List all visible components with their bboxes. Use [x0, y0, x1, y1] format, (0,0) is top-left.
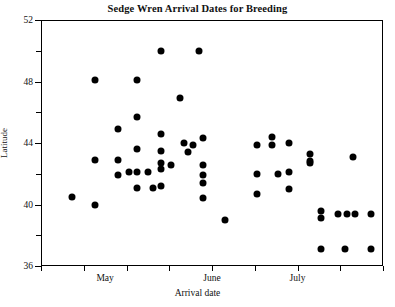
y-tick-label: 40 — [24, 200, 34, 210]
data-point — [285, 186, 292, 193]
data-point — [285, 140, 292, 147]
y-tick-label: 48 — [24, 77, 34, 87]
x-tick-label: June — [203, 273, 220, 283]
y-tick-minor — [36, 174, 41, 175]
data-point — [368, 246, 375, 253]
data-point — [157, 147, 164, 154]
data-point — [268, 133, 275, 140]
data-point — [335, 210, 342, 217]
data-point — [134, 169, 141, 176]
x-tick — [298, 266, 299, 271]
data-point — [352, 210, 359, 217]
x-tick — [212, 266, 213, 271]
data-point — [134, 184, 141, 191]
data-point — [350, 153, 357, 160]
x-tick-label: July — [290, 273, 306, 283]
x-tick — [340, 266, 341, 271]
x-tick — [127, 266, 128, 271]
y-tick-minor — [36, 112, 41, 113]
y-tick-minor — [36, 235, 41, 236]
plot-area: 3640444852 MayJuneJuly — [41, 20, 383, 266]
data-point — [150, 184, 157, 191]
x-tick — [41, 266, 42, 271]
y-tick-major — [35, 82, 41, 83]
data-point — [134, 76, 141, 83]
x-tick — [255, 266, 256, 271]
data-point — [157, 130, 164, 137]
data-point — [114, 156, 121, 163]
data-point — [200, 179, 207, 186]
data-point — [307, 159, 314, 166]
data-point — [275, 170, 282, 177]
data-point — [285, 169, 292, 176]
x-tick — [84, 266, 85, 271]
x-tick — [169, 266, 170, 271]
data-point — [91, 76, 98, 83]
data-point — [307, 150, 314, 157]
data-point — [253, 141, 260, 148]
data-point — [114, 172, 121, 179]
y-tick-major — [35, 20, 41, 21]
data-point — [268, 141, 275, 148]
data-point — [368, 210, 375, 217]
data-point — [176, 95, 183, 102]
data-point — [318, 246, 325, 253]
data-point — [200, 172, 207, 179]
y-tick-label: 36 — [24, 261, 34, 271]
data-point — [253, 190, 260, 197]
data-point — [221, 216, 228, 223]
y-tick-minor — [36, 51, 41, 52]
data-point — [144, 169, 151, 176]
data-point — [157, 183, 164, 190]
data-point — [185, 149, 192, 156]
data-point — [343, 210, 350, 217]
plot-frame — [41, 20, 383, 266]
data-point — [341, 246, 348, 253]
data-point — [126, 169, 133, 176]
x-tick — [383, 266, 384, 271]
data-point — [114, 126, 121, 133]
data-point — [253, 170, 260, 177]
data-point — [318, 215, 325, 222]
chart-title: Sedge Wren Arrival Dates for Breeding — [0, 3, 395, 14]
data-point — [196, 47, 203, 54]
y-tick-label: 44 — [24, 138, 34, 148]
x-axis-title: Arrival date — [0, 288, 395, 298]
chart-container: Sedge Wren Arrival Dates for Breeding La… — [0, 0, 395, 307]
data-point — [91, 156, 98, 163]
data-point — [68, 193, 75, 200]
data-point — [134, 146, 141, 153]
y-tick-major — [35, 143, 41, 144]
x-tick-label: May — [96, 273, 113, 283]
data-point — [157, 166, 164, 173]
data-point — [189, 141, 196, 148]
y-tick-label: 52 — [24, 15, 34, 25]
y-axis-title: Latitude — [0, 128, 9, 158]
data-point — [91, 201, 98, 208]
y-tick-major — [35, 205, 41, 206]
data-point — [200, 161, 207, 168]
data-point — [168, 161, 175, 168]
data-point — [318, 207, 325, 214]
data-point — [181, 140, 188, 147]
data-point — [157, 47, 164, 54]
data-point — [200, 195, 207, 202]
data-point — [200, 135, 207, 142]
data-point — [134, 113, 141, 120]
